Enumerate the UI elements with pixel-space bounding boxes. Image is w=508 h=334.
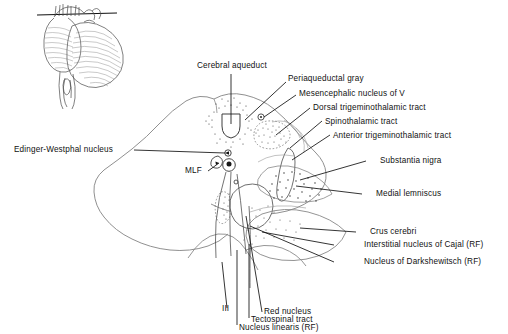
leader-crus-cerebri: [300, 228, 356, 232]
oculomotor-nucleus-core: [227, 162, 232, 167]
red-nucleus: [230, 184, 273, 229]
label-spinothalamic-tract: Spinothalamic tract: [325, 118, 397, 126]
label-nucleus-darkshewitsch: Nucleus of Darkshewitsch (RF): [364, 258, 481, 266]
leader-nucleus-darkshewitsch: [250, 226, 334, 262]
medulla-left: [59, 72, 63, 109]
midline-dorsal: [214, 99, 217, 113]
label-substantia-nigra: Substantia nigra: [380, 157, 442, 165]
leader-interstitial-nucleus-cajal: [262, 232, 334, 245]
label-interstitial-nucleus-cajal: Interstitial nucleus of Cajal (RF): [364, 241, 483, 249]
label-medial-lemniscus: Medial lemniscus: [376, 190, 441, 198]
label-edinger-westphal-nucleus: Edinger-Westphal nucleus: [14, 146, 113, 154]
label-mesencephalic-nucleus-v: Mesencephalic nucleus of V: [299, 90, 405, 98]
crus-cerebri-stipple: [264, 220, 301, 241]
label-nucleus-linearis: Nucleus linearis (RF): [239, 324, 319, 332]
leader-medial-lemniscus: [296, 186, 362, 194]
leader-edinger-westphal: [134, 150, 225, 153]
pons-outline: [44, 18, 66, 72]
label-oculomotor-nerve: III: [222, 305, 229, 313]
label-periaqueductal-gray: Periaqueductal gray: [288, 75, 364, 83]
midbrain-section-figure: [0, 0, 508, 334]
label-crus-cerebri: Crus cerebri: [370, 228, 416, 236]
dorsal-raphe-stipple: [256, 124, 287, 146]
cerebellum-outline: [67, 22, 123, 87]
leader-spinothalamic-tract: [290, 121, 322, 148]
leader-anterior-trigeminothalamic: [292, 135, 330, 160]
label-anterior-trigeminothalamic-tract: Anterior trigeminothalamic tract: [333, 132, 451, 140]
label-cerebral-aqueduct: Cerebral aqueduct: [197, 62, 267, 70]
section-level-line: [37, 13, 117, 15]
darkshewitsch-marker: [234, 180, 238, 184]
interpeduncular-fossa: [188, 234, 258, 270]
ventral-contour-right: [246, 245, 306, 266]
label-mlf: MLF: [185, 167, 202, 175]
leader-dorsal-trigeminothalamic: [276, 108, 310, 135]
section-outline-left: [94, 96, 228, 250]
leader-oculomotor-nerve: [222, 262, 227, 308]
nucleus-linearis-stipple: [223, 194, 230, 220]
brainstem-inset: [37, 4, 123, 109]
dorsal-raphe-outline: [254, 121, 290, 149]
label-dorsal-trigeminothalamic-tract: Dorsal trigeminothalamic tract: [313, 104, 426, 112]
leader-substantia-nigra: [300, 161, 366, 180]
midbrain-cross-section: [94, 94, 346, 288]
